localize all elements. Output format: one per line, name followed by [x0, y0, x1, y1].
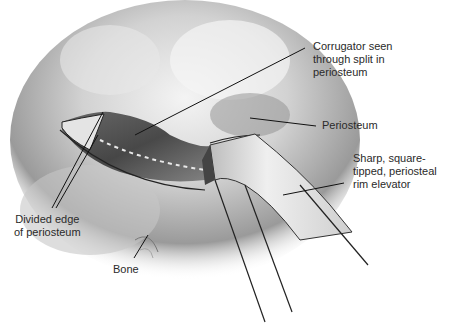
label-corrugator: Corrugator seen through split in periost… [313, 40, 393, 79]
label-elevator: Sharp, square- tipped, periosteal rim el… [353, 152, 437, 191]
label-divided-edge: Divided edge of periosteum [14, 213, 81, 239]
label-bone: Bone [113, 263, 139, 276]
surgical-illustration: Corrugator seen through split in periost… [0, 0, 451, 333]
label-periosteum: Periosteum [322, 119, 378, 132]
